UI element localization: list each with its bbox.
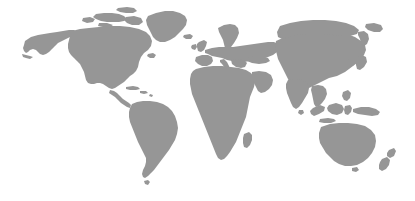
world-map-figure: Gray silhouette world map on a white bac… bbox=[0, 0, 415, 201]
world-map-graphic bbox=[0, 0, 415, 201]
